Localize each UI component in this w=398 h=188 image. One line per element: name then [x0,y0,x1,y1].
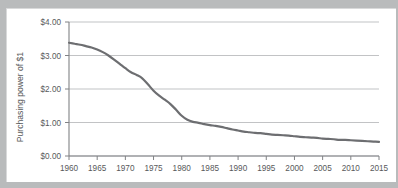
x-tick-label: 1970 [116,164,135,173]
line-chart: Purchasing power of $1 $0.00$1.00$2.00$3… [7,9,397,183]
y-tick-label: $3.00 [41,52,62,61]
y-axis-ticks: $0.00$1.00$2.00$3.00$4.00 [41,18,70,161]
x-tick-label: 1965 [88,164,107,173]
x-tick-label: 1980 [173,164,192,173]
x-tick-label: 2000 [285,164,304,173]
x-tick-label: 2005 [314,164,333,173]
x-tick-label: 1960 [60,164,79,173]
figure-frame: Purchasing power of $1 $0.00$1.00$2.00$3… [0,0,398,188]
y-axis-title: Purchasing power of $1 [15,52,25,143]
x-tick-label: 2015 [370,164,389,173]
y-tick-label: $0.00 [41,152,62,161]
x-tick-label: 2010 [342,164,361,173]
y-axis-title-text: Purchasing power of $1 [15,52,25,143]
figure-panel: Purchasing power of $1 $0.00$1.00$2.00$3… [6,8,396,182]
y-tick-label: $1.00 [41,119,62,128]
x-tick-label: 1975 [144,164,163,173]
y-tick-label: $4.00 [41,18,62,27]
x-tick-label: 1985 [201,164,220,173]
x-axis-ticks: 1960196519701975198019851990199520002005… [60,156,389,173]
series-line-purchasing-power [69,43,379,142]
gridlines [69,22,379,156]
chart-svg: Purchasing power of $1 $0.00$1.00$2.00$3… [7,9,397,183]
y-tick-label: $2.00 [41,85,62,94]
x-tick-label: 1990 [229,164,248,173]
x-tick-label: 1995 [257,164,276,173]
